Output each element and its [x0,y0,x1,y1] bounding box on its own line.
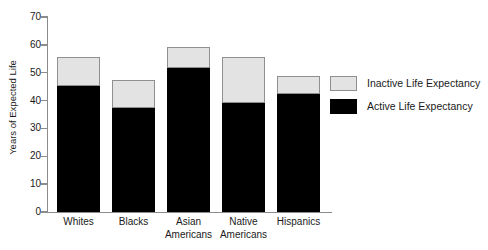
legend-label: Active Life Expectancy [367,100,473,113]
bar-stack [222,57,265,212]
bar-segment-inactive [277,76,320,94]
chart-figure: Years of Expected Life 010203040506070 W… [0,0,488,250]
plot-area: WhitesBlacksAsianAmericansNativeAmerican… [0,0,488,250]
bar-segment-active [167,68,210,212]
bar-segment-inactive [167,47,210,68]
x-axis-tick-label: Hispanics [265,216,332,229]
bar-segment-active [222,103,265,212]
legend-swatch-inactive [330,76,357,91]
x-axis-label-line: Hispanics [265,216,332,229]
bar-segment-active [112,108,155,212]
x-axis-label-line: Americans [210,229,277,242]
bar-stack [112,80,155,212]
bar-segment-inactive [112,80,155,108]
bar-stack [167,47,210,212]
legend-label: Inactive Life Expectancy [367,77,480,90]
bar-segment-inactive [57,57,100,86]
bar-segment-active [57,86,100,212]
bar-stack [277,76,320,212]
bar-segment-inactive [222,57,265,103]
bar-stack [57,57,100,212]
bar-segment-active [277,94,320,212]
legend-swatch-active [330,99,357,114]
